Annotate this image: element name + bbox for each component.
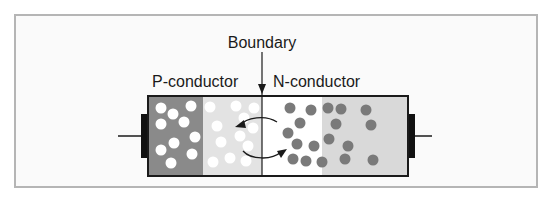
hole-particle (187, 149, 198, 160)
electron-particle (317, 157, 328, 168)
hole-particle (243, 141, 254, 152)
electron-particle (336, 104, 347, 115)
hole-particle (186, 101, 197, 112)
electron-particle (331, 119, 342, 130)
boundary-label: Boundary (228, 34, 297, 51)
electron-particle (366, 120, 377, 131)
electron-particle (309, 141, 320, 152)
hole-particle (216, 137, 227, 148)
hole-particle (166, 158, 177, 169)
hole-particle (248, 123, 259, 134)
hole-particle (169, 138, 180, 149)
electron-particle (324, 134, 335, 145)
electron-particle (295, 118, 306, 129)
electron-particle (361, 105, 372, 116)
hole-particle (205, 102, 216, 113)
hole-particle (225, 153, 236, 164)
electron-particle (343, 141, 354, 152)
hole-particle (249, 103, 260, 114)
hole-particle (190, 132, 201, 143)
boundary-arrow-icon (258, 84, 266, 94)
p-conductor-label: P-conductor (152, 73, 239, 90)
electron-particle (292, 139, 303, 150)
hole-particle (179, 117, 190, 128)
pn-junction-diagram: Boundary P-conductor N-conductor (0, 0, 555, 197)
electron-particle (368, 155, 379, 166)
electron-particle (301, 156, 312, 167)
electron-particle (285, 103, 296, 114)
hole-particle (156, 145, 167, 156)
electron-particle (306, 105, 317, 116)
electron-particle (323, 103, 334, 114)
hole-particle (212, 121, 223, 132)
hole-particle (241, 156, 252, 167)
electron-particle (340, 154, 351, 165)
n-conductor-label: N-conductor (273, 73, 361, 90)
hole-particle (168, 109, 179, 120)
hole-particle (235, 131, 246, 142)
hole-particle (208, 157, 219, 168)
hole-particle (231, 101, 242, 112)
hole-particle (156, 119, 167, 130)
electron-particle (288, 154, 299, 165)
hole-particle (156, 103, 167, 114)
electron-particle (283, 128, 294, 139)
